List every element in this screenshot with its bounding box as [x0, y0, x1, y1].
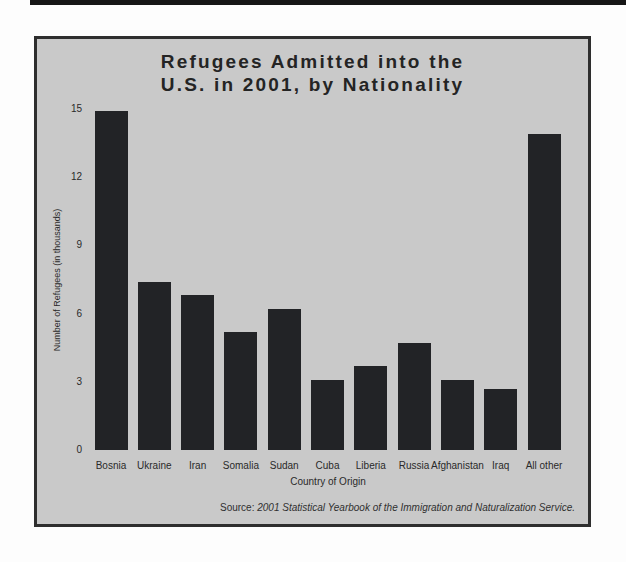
bar-somalia — [224, 332, 257, 450]
bar-liberia — [354, 366, 387, 450]
y-tick-0: 0 — [34, 444, 82, 456]
source-note: Source: 2001 Statistical Yearbook of the… — [220, 502, 575, 513]
bar-russia — [398, 343, 431, 450]
bar-afghanistan — [441, 380, 474, 450]
chart-title: Refugees Admitted into the U.S. in 2001,… — [34, 50, 591, 96]
bar-cuba — [311, 380, 344, 450]
page-top-rule — [30, 0, 626, 5]
bar-all-other — [528, 134, 561, 450]
bar-sudan — [268, 309, 301, 450]
y-tick-15: 15 — [34, 103, 82, 115]
x-axis-title: Country of Origin — [34, 476, 622, 487]
chart-layer: Refugees Admitted into the U.S. in 2001,… — [34, 36, 591, 527]
y-tick-3: 3 — [34, 376, 82, 388]
bar-iraq — [484, 389, 517, 450]
source-note-text: 2001 Statistical Yearbook of the Immigra… — [257, 502, 575, 513]
bar-ukraine — [138, 282, 171, 450]
source-note-prefix: Source: — [220, 502, 257, 513]
y-tick-12: 12 — [34, 171, 82, 183]
category-label-all-other: All other — [508, 460, 580, 471]
bar-iran — [181, 295, 214, 450]
bar-bosnia — [95, 111, 128, 450]
y-axis-title: Number of Refugees (in thousands) — [52, 209, 62, 352]
chart-panel: Refugees Admitted into the U.S. in 2001,… — [34, 36, 591, 527]
